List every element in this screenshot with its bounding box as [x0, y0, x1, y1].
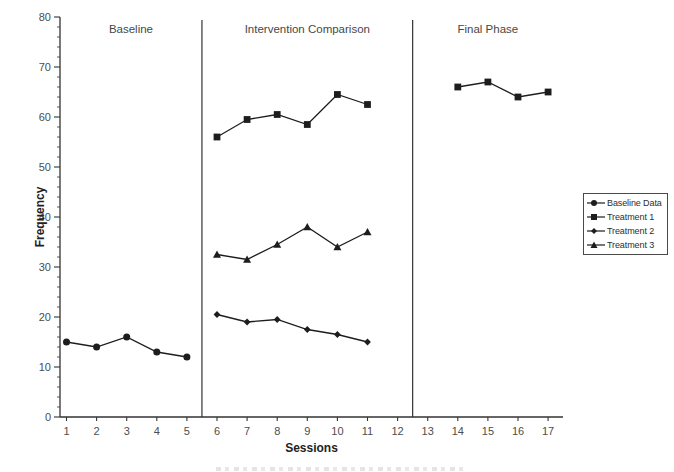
x-tick-label: 3	[124, 425, 130, 437]
legend-label: Treatment 2	[607, 226, 654, 236]
data-point-marker	[274, 111, 281, 118]
data-point-marker	[244, 116, 251, 123]
x-tick-label: 14	[452, 425, 464, 437]
data-point-marker	[515, 94, 522, 101]
legend-item: Baseline Data	[587, 197, 665, 209]
x-tick-label: 11	[362, 425, 373, 437]
legend-item: Treatment 1	[587, 211, 665, 223]
x-tick-label: 5	[184, 425, 190, 437]
x-tick-label: 12	[391, 425, 403, 437]
y-tick-label: 70	[39, 61, 51, 73]
data-point-marker	[183, 354, 190, 361]
phase-label: Baseline	[109, 23, 153, 35]
x-tick-label: 15	[482, 425, 494, 437]
x-tick-label: 1	[63, 425, 69, 437]
data-point-marker	[213, 251, 221, 258]
series-line	[217, 315, 368, 343]
x-tick-label: 13	[422, 425, 434, 437]
chart-canvas: 0102030405060708012345678910111213141516…	[0, 0, 674, 472]
y-tick-label: 60	[39, 111, 51, 123]
legend-label: Treatment 3	[607, 240, 654, 250]
x-tick-label: 2	[94, 425, 100, 437]
data-point-marker	[364, 339, 371, 346]
legend-item: Treatment 2	[587, 225, 665, 237]
data-point-marker	[214, 311, 221, 318]
data-point-marker	[274, 316, 281, 323]
x-tick-label: 9	[304, 425, 310, 437]
data-point-marker	[123, 334, 130, 341]
phase-label: Final Phase	[457, 23, 518, 35]
data-point-marker	[304, 121, 311, 128]
data-point-marker	[244, 319, 251, 326]
x-tick-label: 16	[512, 425, 524, 437]
x-tick-label: 4	[154, 425, 160, 437]
legend-label: Baseline Data	[607, 198, 662, 208]
y-tick-label: 50	[39, 161, 51, 173]
diamond-marker-icon	[587, 226, 605, 236]
data-point-marker	[334, 331, 341, 338]
legend-item: Treatment 3	[587, 239, 665, 251]
figure: 0102030405060708012345678910111213141516…	[0, 0, 674, 472]
data-point-marker	[93, 344, 100, 351]
series-line	[217, 227, 368, 260]
y-tick-label: 30	[39, 261, 51, 273]
series-line	[217, 95, 368, 138]
data-point-marker	[153, 349, 160, 356]
data-point-marker	[485, 79, 492, 86]
y-tick-label: 0	[45, 411, 51, 423]
data-point-marker	[273, 241, 281, 248]
data-point-marker	[214, 134, 221, 141]
data-point-marker	[63, 339, 70, 346]
circle-marker-icon	[587, 198, 605, 208]
x-tick-label: 17	[542, 425, 554, 437]
y-tick-label: 10	[39, 361, 51, 373]
data-point-marker	[303, 223, 311, 230]
y-axis-title: Frequency	[33, 186, 47, 247]
phase-label: Intervention Comparison	[245, 23, 370, 35]
triangle-marker-icon	[587, 240, 605, 250]
data-point-marker	[364, 101, 371, 108]
legend-label: Treatment 1	[607, 212, 654, 222]
data-point-marker	[334, 91, 341, 98]
data-point-marker	[364, 228, 372, 235]
data-point-marker	[454, 84, 461, 91]
x-axis-title: Sessions	[285, 441, 338, 455]
x-tick-label: 8	[274, 425, 280, 437]
y-tick-label: 20	[39, 311, 51, 323]
square-marker-icon	[587, 212, 605, 222]
y-tick-label: 80	[39, 11, 51, 23]
legend: Baseline Data Treatment 1 Treatment 2 Tr…	[583, 193, 668, 255]
series-line	[458, 82, 548, 97]
x-tick-label: 6	[214, 425, 220, 437]
x-tick-label: 7	[244, 425, 250, 437]
data-point-marker	[333, 243, 341, 250]
x-tick-label: 10	[331, 425, 343, 437]
data-point-marker	[304, 326, 311, 333]
data-point-marker	[545, 89, 552, 96]
cropped-caption-remnant	[216, 467, 468, 471]
